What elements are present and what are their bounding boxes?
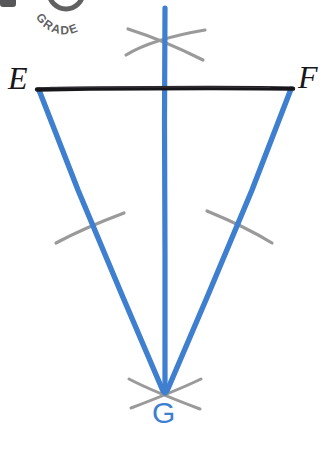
segment-EF-texture (50, 87, 270, 88)
svg-text:GRADE: GRADE (33, 10, 81, 37)
construction-diagram-canvas: GRADE E F G (0, 0, 326, 473)
vertex-label-G: G (152, 398, 175, 428)
vertex-label-F: F (298, 61, 318, 93)
vertical-bisector-line (165, 8, 166, 393)
segment-EF-line (37, 88, 293, 90)
vertex-label-E: E (8, 62, 28, 94)
segment-FG-line (167, 89, 291, 391)
watermark-text: GRADE (33, 10, 81, 37)
watermark-corner-fragment (0, 0, 16, 7)
watermark-stamp: GRADE (33, 0, 83, 37)
